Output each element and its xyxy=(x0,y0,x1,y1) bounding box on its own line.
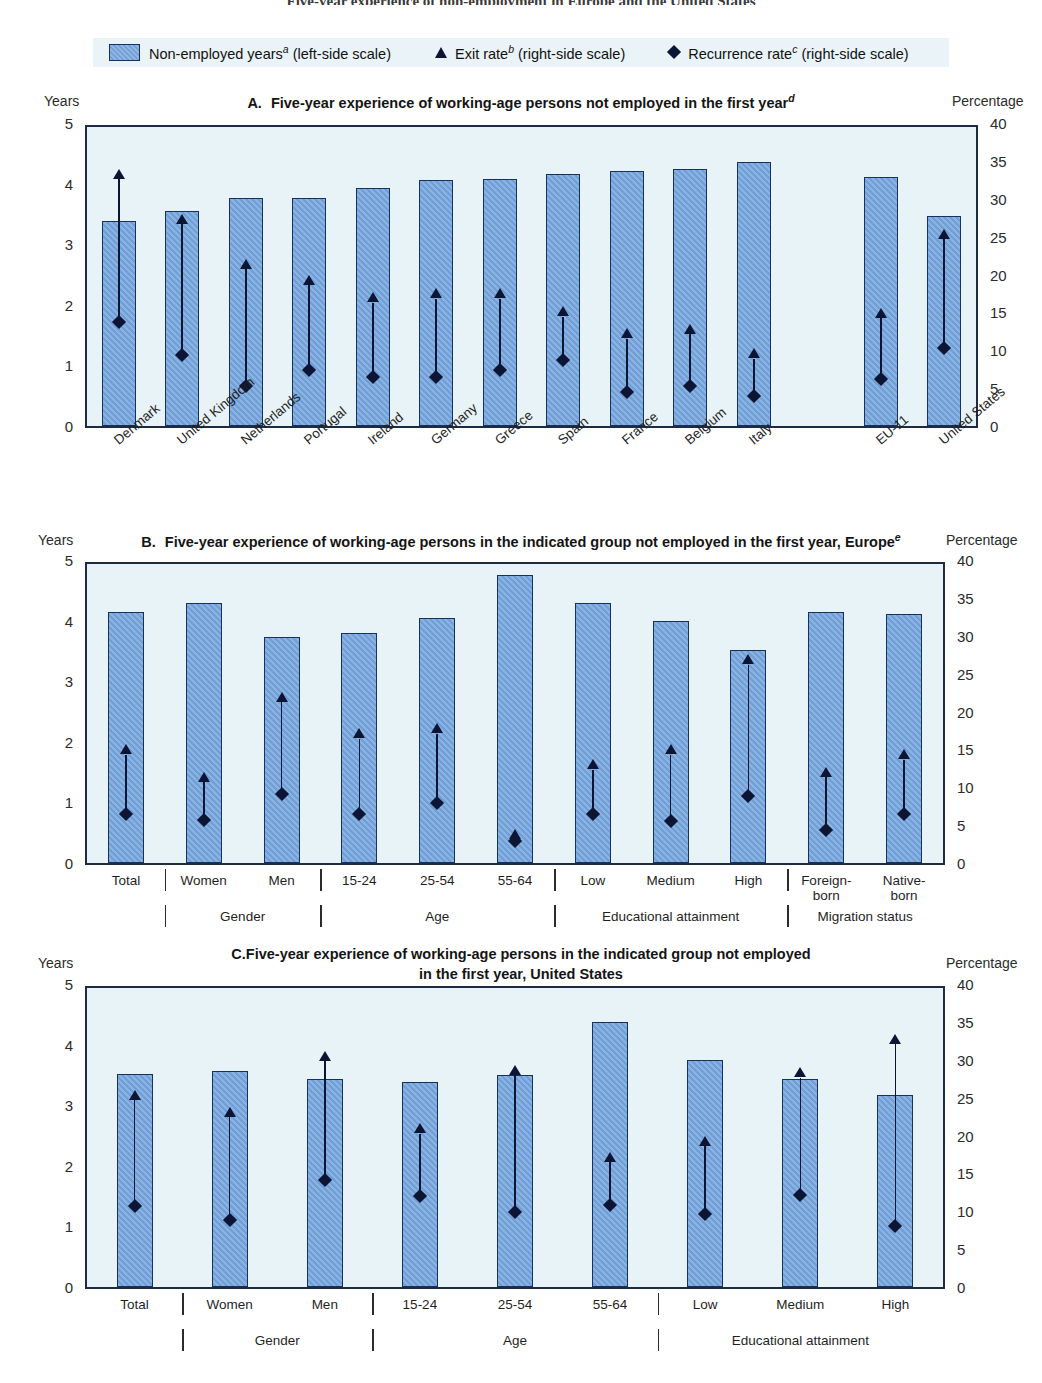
marker-stem xyxy=(880,318,882,379)
y-axis-tick-right: 40 xyxy=(957,976,997,993)
exit-rate-marker xyxy=(604,1152,616,1162)
y-axis-tick-left: 2 xyxy=(39,1158,73,1175)
group-separator xyxy=(658,1329,660,1351)
group-label: Migration status xyxy=(755,909,975,924)
marker-stem xyxy=(943,239,945,347)
y-axis-tick-right: 10 xyxy=(957,779,997,796)
group-label: Educational attainment xyxy=(690,1333,910,1348)
exit-rate-marker xyxy=(430,288,442,298)
panel-c-plot-area xyxy=(85,986,945,1289)
exit-rate-marker xyxy=(875,308,887,318)
y-axis-tick-right: 0 xyxy=(957,1279,997,1296)
exit-rate-marker xyxy=(509,1065,521,1075)
y-axis-tick-left: 2 xyxy=(39,297,73,314)
y-axis-tick-left: 1 xyxy=(39,1218,73,1235)
panel-c-right-axis-title: Percentage xyxy=(946,955,1018,971)
panel-c-title-line2: in the first year, United States xyxy=(0,966,1042,982)
panel-c-left-axis-title: Years xyxy=(38,955,73,971)
y-axis-tick-right: 30 xyxy=(957,628,997,645)
y-axis-tick-left: 3 xyxy=(39,1097,73,1114)
marker-stem xyxy=(704,1146,706,1214)
exit-rate-marker xyxy=(276,692,288,702)
exit-rate-marker xyxy=(303,275,315,285)
marker-stem xyxy=(748,665,750,796)
group-separator xyxy=(165,869,167,891)
y-axis-tick-left: 5 xyxy=(39,976,73,993)
y-axis-tick-right: 25 xyxy=(957,1090,997,1107)
chart-legend: Non-employed yearsa (left-side scale) Ex… xyxy=(93,38,949,67)
y-axis-tick-right: 35 xyxy=(957,1014,997,1031)
bar-swatch-icon xyxy=(109,44,140,61)
diamond-marker-icon xyxy=(667,45,681,59)
y-axis-tick-left: 1 xyxy=(39,794,73,811)
y-axis-tick-right: 0 xyxy=(957,855,997,872)
group-separator xyxy=(372,1293,374,1315)
y-axis-tick-right: 20 xyxy=(957,1128,997,1145)
exit-rate-marker xyxy=(665,744,677,754)
y-axis-tick-left: 0 xyxy=(39,418,73,435)
group-separator xyxy=(787,869,789,891)
bar xyxy=(864,177,898,426)
panel-a-title: A.Five-year experience of working-age pe… xyxy=(0,92,1042,111)
bar xyxy=(886,614,922,863)
exit-rate-marker xyxy=(367,292,379,302)
exit-rate-marker xyxy=(794,1067,806,1077)
exit-rate-marker xyxy=(198,772,210,782)
exit-rate-marker xyxy=(748,348,760,358)
panel-a-letter: A. xyxy=(247,95,262,111)
marker-stem xyxy=(281,702,283,794)
exit-rate-marker xyxy=(938,229,950,239)
y-axis-tick-left: 0 xyxy=(39,855,73,872)
marker-stem xyxy=(800,1078,802,1195)
y-axis-tick-right: 0 xyxy=(990,418,1030,435)
exit-rate-marker xyxy=(494,288,506,298)
marker-stem xyxy=(324,1061,326,1180)
y-axis-tick-right: 40 xyxy=(990,115,1030,132)
marker-stem xyxy=(134,1100,136,1206)
exit-rate-marker xyxy=(224,1107,236,1117)
panel-c-letter: C. xyxy=(231,946,246,962)
exit-rate-marker xyxy=(176,214,188,224)
legend-item-exit-rate: Exit rateb (right-side scale) xyxy=(435,43,625,62)
y-axis-tick-left: 1 xyxy=(39,357,73,374)
y-axis-tick-right: 40 xyxy=(957,552,997,569)
legend-label-recurrence-rate: Recurrence ratec (right-side scale) xyxy=(688,43,908,62)
exit-rate-marker xyxy=(889,1034,901,1044)
y-axis-tick-right: 25 xyxy=(990,229,1030,246)
marker-stem xyxy=(499,299,501,370)
y-axis-tick-right: 25 xyxy=(957,666,997,683)
legend-label-non-employed-years: Non-employed yearsa (left-side scale) xyxy=(149,43,391,62)
panel-c-title-line1: C.Five-year experience of working-age pe… xyxy=(0,946,1042,962)
y-axis-tick-left: 0 xyxy=(39,1279,73,1296)
exit-rate-marker xyxy=(557,306,569,316)
marker-stem xyxy=(436,734,438,804)
y-axis-tick-right: 10 xyxy=(990,342,1030,359)
group-separator xyxy=(554,869,556,891)
y-axis-tick-right: 20 xyxy=(957,704,997,721)
y-axis-tick-left: 3 xyxy=(39,673,73,690)
legend-item-non-employed-years: Non-employed yearsa (left-side scale) xyxy=(109,43,391,62)
marker-stem xyxy=(514,1075,516,1212)
group-label: Age xyxy=(327,909,547,924)
y-axis-tick-left: 5 xyxy=(39,115,73,132)
group-separator xyxy=(182,1293,184,1315)
marker-stem xyxy=(419,1134,421,1196)
y-axis-tick-right: 30 xyxy=(957,1052,997,1069)
exit-rate-marker xyxy=(353,728,365,738)
group-separator xyxy=(554,905,556,927)
marker-stem xyxy=(670,755,672,822)
marker-stem xyxy=(245,269,247,386)
exit-rate-marker xyxy=(414,1123,426,1133)
exit-rate-marker xyxy=(129,1090,141,1100)
bar xyxy=(575,603,611,863)
y-axis-tick-left: 4 xyxy=(39,176,73,193)
group-separator xyxy=(320,905,322,927)
y-axis-tick-right: 30 xyxy=(990,191,1030,208)
exit-rate-marker xyxy=(621,328,633,338)
group-label: Educational attainment xyxy=(561,909,781,924)
exit-rate-marker xyxy=(587,759,599,769)
bar xyxy=(108,612,144,863)
y-axis-tick-right: 20 xyxy=(990,267,1030,284)
y-axis-tick-left: 3 xyxy=(39,236,73,253)
panel-b-plot-area xyxy=(85,562,945,865)
